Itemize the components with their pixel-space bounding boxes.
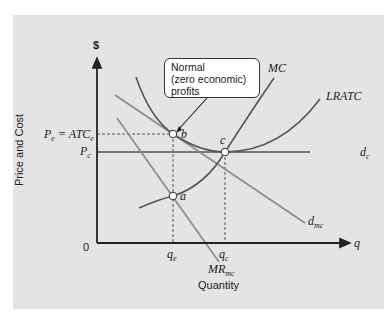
callout-line-3: profits — [171, 85, 253, 97]
mc-label: MC — [267, 61, 287, 75]
mrmc-label: MRmc — [207, 262, 235, 278]
economics-diagram: $ 0 q Pe = ATCe Pc qe qc MC LRATC dc dmc… — [0, 0, 384, 319]
mrmc-line — [117, 118, 219, 262]
normal-profits-callout: Normal (zero economic) profits — [164, 58, 260, 98]
point-c — [221, 148, 229, 156]
origin-label: 0 — [83, 241, 89, 253]
point-b-label: b — [181, 127, 187, 141]
point-a — [169, 192, 177, 200]
x-axis-label: Quantity — [198, 279, 239, 291]
point-c-label: c — [220, 133, 226, 147]
dmc-demand-line — [115, 95, 305, 223]
point-a-label: a — [180, 189, 186, 203]
dashed-guides — [97, 134, 225, 243]
pe-atce-label: Pe = ATCe — [43, 127, 94, 143]
qc-label: qc — [219, 247, 229, 263]
dmc-label: dmc — [308, 214, 324, 230]
y-axis-symbol: $ — [93, 39, 99, 51]
callout-line-1: Normal — [171, 61, 253, 73]
pc-label: Pc — [79, 144, 91, 160]
lratc-label: LRATC — [325, 89, 363, 103]
callout-line-2: (zero economic) — [171, 73, 253, 85]
x-axis-symbol: q — [354, 236, 360, 250]
callout-pointer — [178, 98, 207, 130]
qe-label: qe — [167, 247, 177, 263]
point-b — [169, 130, 177, 138]
y-axis-label: Price and Cost — [13, 114, 25, 186]
dc-label: dc — [360, 145, 370, 161]
